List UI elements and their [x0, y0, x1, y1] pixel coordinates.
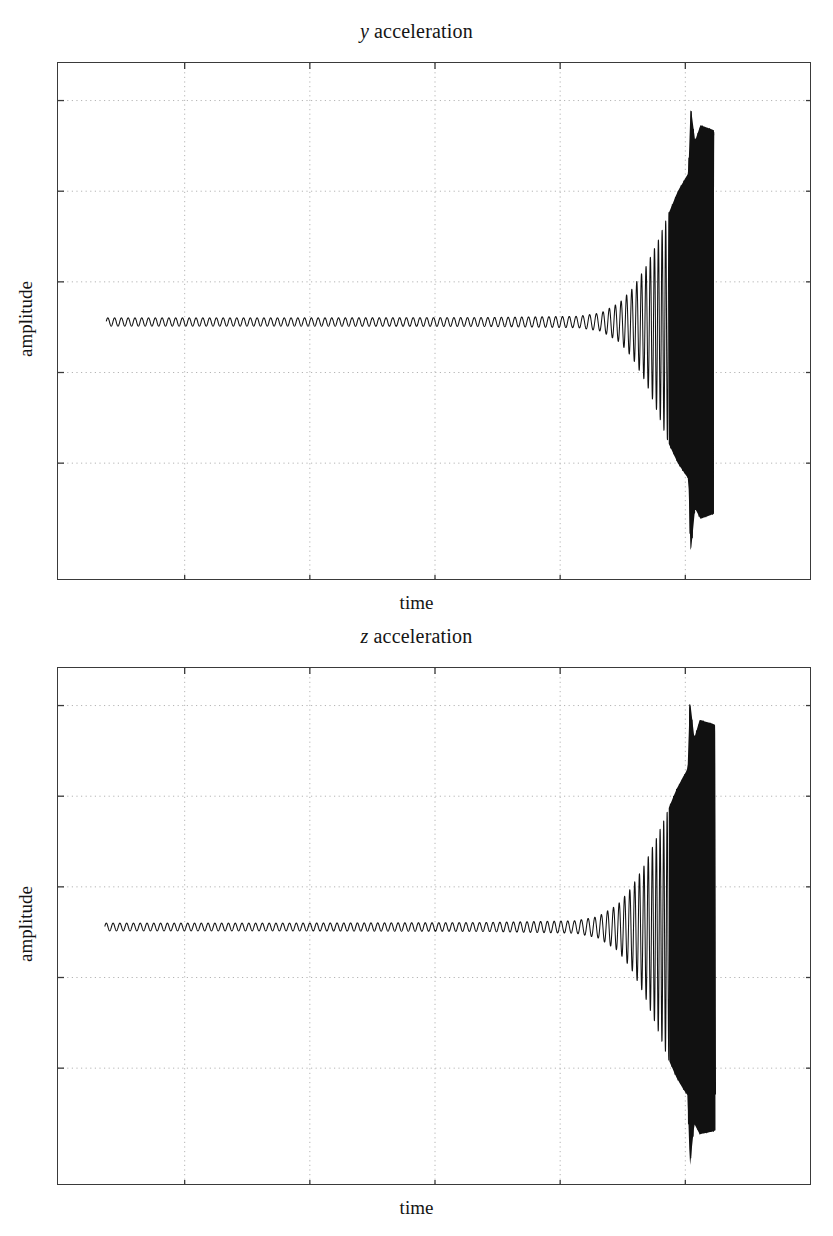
x-axis-label-time-panel-1: time [0, 592, 833, 614]
signal-trace [105, 705, 716, 1158]
saturated-envelope-fill [669, 704, 716, 1165]
signal-trace [106, 112, 714, 538]
plot-area-y-acceleration [57, 62, 811, 580]
title-variable-y: y [360, 20, 374, 42]
x-axis-label-time-panel-2: time [0, 1197, 833, 1219]
y-axis-label-amplitude-panel-2: amplitude [15, 864, 37, 984]
plot-area-z-acceleration [57, 667, 811, 1185]
panel-title-z-acceleration: zacceleration [0, 625, 833, 648]
plot-canvas-y-acceleration [58, 63, 811, 580]
y-axis-label-amplitude-panel-1: amplitude [15, 259, 37, 379]
plot-canvas-z-acceleration [58, 668, 811, 1185]
title-text-z: acceleration [373, 625, 472, 647]
panel-title-y-acceleration: yacceleration [0, 20, 833, 43]
title-text-y: acceleration [374, 20, 473, 42]
saturated-envelope-fill [669, 110, 714, 550]
title-variable-z: z [361, 625, 374, 647]
acceleration-figure: yacceleration amplitude time zaccelerati… [0, 0, 833, 1236]
